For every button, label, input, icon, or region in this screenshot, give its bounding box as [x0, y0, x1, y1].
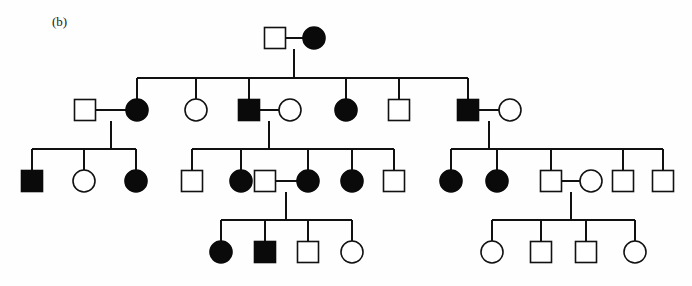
gen3-female-affected-1[interactable]: [125, 170, 147, 192]
gen3-female-affected-6[interactable]: [486, 170, 508, 192]
gen1-female-affected[interactable]: [303, 27, 325, 49]
gen4-male-unaffected-3[interactable]: [576, 242, 597, 263]
gen4-female-affected-1[interactable]: [210, 241, 232, 263]
gen2-spouse-female-unaffected-2[interactable]: [499, 99, 521, 121]
gen1-male-unaffected[interactable]: [265, 28, 286, 49]
gen3-female-affected-4[interactable]: [341, 170, 363, 192]
gen2-female-affected-2[interactable]: [335, 99, 357, 121]
pedigree-diagram: (b): [0, 0, 692, 286]
pedigree-figure: (b): [0, 0, 692, 286]
gen2-female-unaffected-1[interactable]: [185, 99, 207, 121]
gen3-female-affected-3[interactable]: [297, 170, 319, 192]
gen3-male-unaffected-5[interactable]: [613, 171, 634, 192]
gen3-female-affected-2[interactable]: [230, 170, 252, 192]
gen4-female-unaffected-2[interactable]: [481, 241, 503, 263]
gen2-male-affected-1[interactable]: [239, 100, 260, 121]
gen3-male-affected-1[interactable]: [22, 171, 43, 192]
panel-label: (b): [52, 14, 67, 29]
gen4-male-unaffected-2[interactable]: [531, 242, 552, 263]
gen4-male-unaffected-1[interactable]: [298, 242, 319, 263]
gen3-male-unaffected-4[interactable]: [541, 171, 562, 192]
gen2-female-affected-1[interactable]: [126, 99, 148, 121]
gen3-male-unaffected-2[interactable]: [255, 171, 276, 192]
gen2-spouse-female-unaffected-1[interactable]: [279, 99, 301, 121]
gen3-male-unaffected-1[interactable]: [182, 171, 203, 192]
gen3-male-unaffected-6[interactable]: [653, 171, 674, 192]
gen3-female-affected-5[interactable]: [440, 170, 462, 192]
gen2-spouse-male-unaffected[interactable]: [75, 100, 96, 121]
gen3-spouse-female-unaffected[interactable]: [580, 170, 602, 192]
gen3-male-unaffected-3[interactable]: [384, 171, 405, 192]
gen4-female-unaffected-1[interactable]: [341, 241, 363, 263]
gen3-female-unaffected-1[interactable]: [73, 170, 95, 192]
gen4-male-affected-1[interactable]: [255, 242, 276, 263]
gen2-male-affected-2[interactable]: [458, 100, 479, 121]
gen2-male-unaffected-1[interactable]: [389, 100, 410, 121]
gen4-female-unaffected-4[interactable]: [624, 241, 646, 263]
